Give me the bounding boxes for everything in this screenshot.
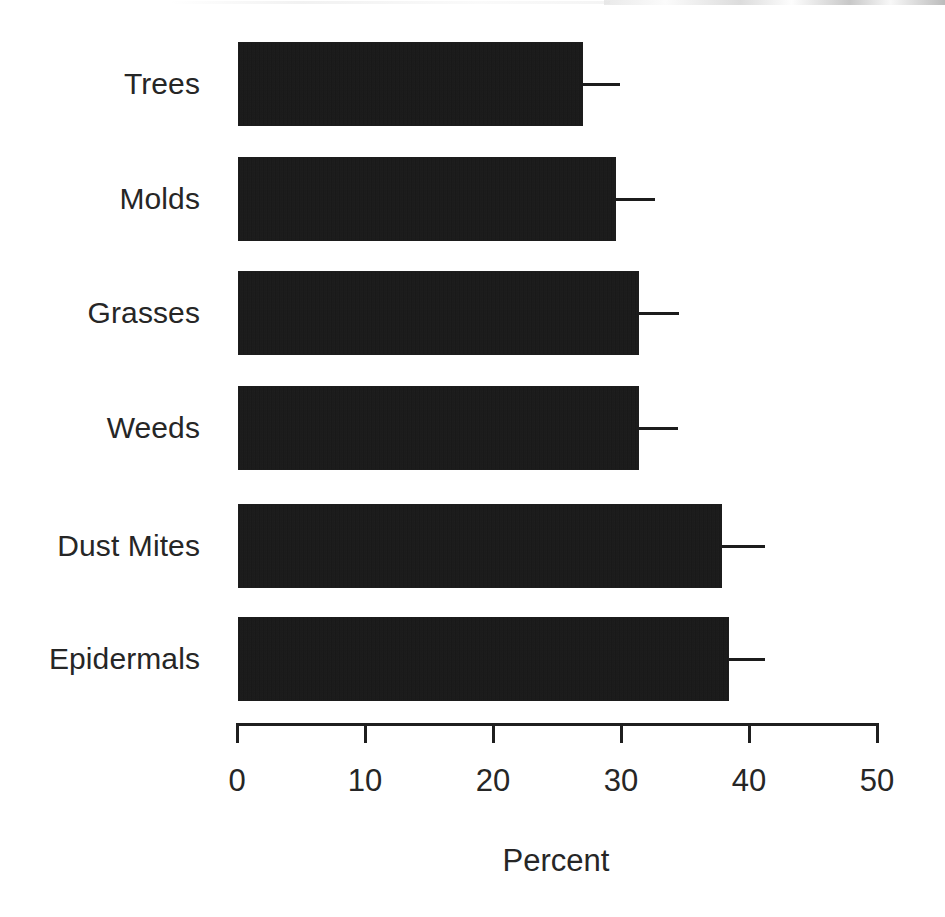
category-label-trees: Trees xyxy=(124,69,200,99)
category-label-weeds: Weeds xyxy=(107,413,200,443)
bar-epidermals xyxy=(238,617,729,701)
x-axis-tick-label-40: 40 xyxy=(732,765,766,796)
bar-weeds xyxy=(238,386,639,470)
x-axis-tick-label-0: 0 xyxy=(228,765,245,796)
category-label-molds: Molds xyxy=(119,184,200,214)
x-axis-tick-10 xyxy=(364,723,367,743)
x-axis-tick-label-20: 20 xyxy=(476,765,510,796)
x-axis-tick-30 xyxy=(620,723,623,743)
x-axis-tick-label-10: 10 xyxy=(348,765,382,796)
bar-trees xyxy=(238,42,583,126)
x-axis-tick-20 xyxy=(492,723,495,743)
category-label-epidermals: Epidermals xyxy=(49,644,200,674)
plot-area: TreesMoldsGrassesWeedsDust MitesEpiderma… xyxy=(0,0,945,917)
chart-canvas: TreesMoldsGrassesWeedsDust MitesEpiderma… xyxy=(0,0,945,917)
x-axis-tick-label-50: 50 xyxy=(860,765,894,796)
category-label-dust-mites: Dust Mites xyxy=(57,531,200,561)
bar-molds xyxy=(238,157,616,241)
x-axis-tick-50 xyxy=(876,723,879,743)
x-axis-title: Percent xyxy=(503,845,610,876)
x-axis-tick-40 xyxy=(748,723,751,743)
x-axis-line xyxy=(236,723,879,726)
category-label-grasses: Grasses xyxy=(88,298,200,328)
bar-dust-mites xyxy=(238,504,722,588)
bar-grasses xyxy=(238,271,639,355)
x-axis-tick-0 xyxy=(236,723,239,743)
x-axis-tick-label-30: 30 xyxy=(604,765,638,796)
